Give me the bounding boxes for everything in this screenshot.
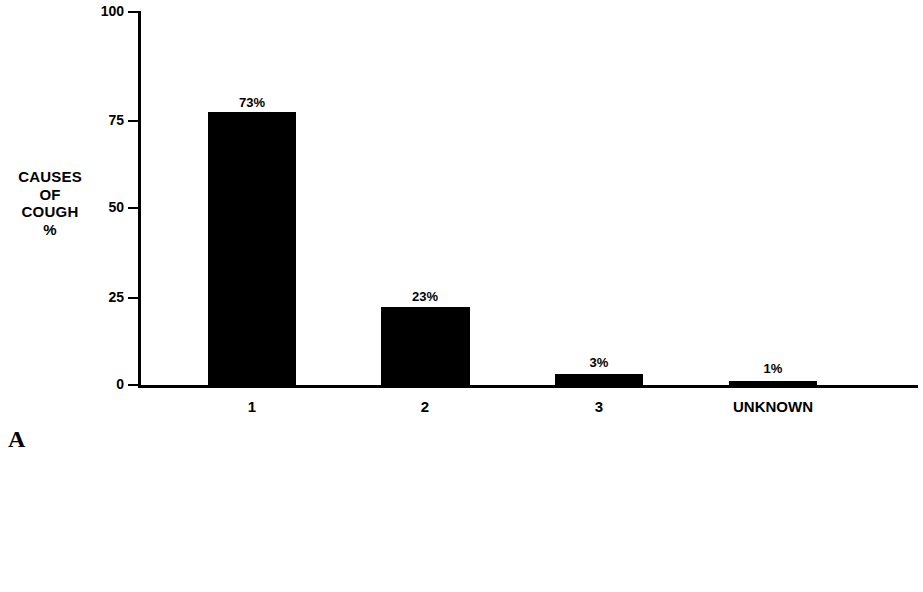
- panel-a-ytick-0: [128, 384, 139, 386]
- figure-canvas: 100 75 50 25 0 CAUSES OF COUGH % 73% 23%…: [0, 0, 923, 592]
- panel-a-bar-value-unknown: 1%: [723, 362, 823, 375]
- panel-a-axis-title: CAUSES OF COUGH %: [4, 168, 96, 239]
- panel-a-bar-unknown: [729, 381, 817, 385]
- panel-a-ytick-50: [128, 207, 139, 209]
- panel-a-bar-value-2: 23%: [375, 290, 475, 303]
- panel-a-ytick-label-75: 75: [58, 113, 124, 127]
- axis-title-line-1: CAUSES: [4, 168, 96, 186]
- chart-panel-a: 100 75 50 25 0 CAUSES OF COUGH % 73% 23%…: [0, 0, 923, 420]
- panel-a-x-axis: [138, 385, 918, 388]
- panel-a-category-label-1: 1: [202, 399, 302, 414]
- panel-a-ytick-100: [128, 11, 139, 13]
- panel-a-category-label-2: 2: [375, 399, 475, 414]
- panel-a-category-label-unknown: UNKNOWN: [708, 399, 838, 414]
- panel-a-bar-1: [208, 112, 296, 385]
- panel-a-bar-2: [381, 307, 470, 385]
- panel-a-ytick-label-0: 0: [58, 377, 124, 391]
- panel-a-y-axis: [138, 11, 141, 387]
- panel-a-ytick-75: [128, 120, 139, 122]
- panel-a-category-label-3: 3: [549, 399, 649, 414]
- chart-panel-b: 100 75 86%: [0, 420, 923, 592]
- panel-a-bar-value-3: 3%: [549, 356, 649, 369]
- axis-title-line-2: OF: [4, 186, 96, 204]
- axis-title-line-3: COUGH: [4, 203, 96, 221]
- panel-a-ytick-25: [128, 297, 139, 299]
- panel-a-bar-value-1: 73%: [202, 96, 302, 109]
- axis-title-line-4: %: [4, 221, 96, 239]
- panel-a-ytick-label-25: 25: [58, 290, 124, 304]
- panel-a-ytick-label-100: 100: [58, 4, 124, 18]
- panel-a-bar-3: [555, 374, 643, 385]
